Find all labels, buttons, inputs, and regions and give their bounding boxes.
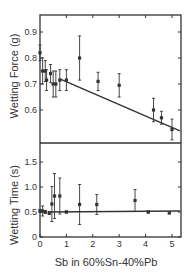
marker	[78, 203, 81, 206]
data-point	[147, 210, 150, 213]
marker	[133, 199, 136, 202]
marker	[65, 210, 68, 213]
marker	[78, 56, 81, 59]
y-tick-label: 1.5	[24, 157, 37, 167]
data-point	[50, 187, 53, 222]
marker	[118, 84, 121, 87]
marker	[48, 211, 51, 214]
wetting-force-panel: 0.60.70.80.9	[24, 15, 181, 140]
data-point	[54, 71, 57, 97]
y-tick-label: 1.0	[24, 182, 37, 192]
data-point	[118, 74, 121, 97]
y-tick-label: 0.8	[24, 53, 37, 63]
marker	[65, 79, 68, 82]
y-tick-label: 0.9	[24, 27, 37, 37]
data-point	[48, 211, 51, 214]
marker	[168, 211, 171, 214]
marker	[58, 79, 61, 82]
data-point	[65, 70, 68, 91]
x-tick-label: 5	[169, 239, 174, 249]
marker	[152, 108, 155, 111]
y-tick-label: 0.6	[24, 105, 37, 115]
data-point	[168, 211, 171, 214]
marker	[95, 203, 98, 206]
data-point	[44, 210, 47, 213]
top-y-axis-title: Wetting Force (g)	[8, 34, 20, 119]
data-point	[58, 70, 61, 91]
marker	[45, 79, 48, 82]
marker	[44, 210, 47, 213]
x-tick-label: 2	[90, 239, 95, 249]
data-point	[96, 72, 99, 90]
wetting-time-panel: 00.51.01.5012345	[24, 157, 181, 249]
marker	[50, 202, 53, 205]
chart: 0.60.70.80.9 00.51.01.5012345 Wetting Fo…	[0, 0, 192, 277]
data-point	[65, 210, 68, 213]
plot-border	[40, 15, 181, 237]
data-point	[78, 185, 81, 225]
y-tick-label: 0.5	[24, 207, 37, 217]
marker	[160, 116, 163, 119]
x-tick-label: 4	[143, 239, 148, 249]
marker	[53, 194, 56, 197]
data-point	[170, 119, 173, 140]
y-tick-label: 0	[32, 232, 37, 242]
marker	[58, 194, 61, 197]
x-tick-label: 1	[64, 239, 69, 249]
marker	[147, 210, 150, 213]
y-tick-label: 0.7	[24, 79, 37, 89]
x-axis-title: Sb in 60%Sn-40%Pb	[55, 256, 158, 268]
marker	[170, 128, 173, 131]
data-point	[133, 190, 136, 212]
plot-frame	[40, 15, 181, 237]
marker	[49, 72, 52, 75]
x-tick-label: 0	[37, 239, 42, 249]
bottom-y-axis-title: Wetting Time (s)	[8, 165, 20, 245]
data-point	[58, 178, 61, 214]
data-point	[78, 36, 81, 80]
marker	[54, 82, 57, 85]
data-point	[49, 65, 52, 83]
marker	[96, 80, 99, 83]
x-tick-label: 3	[117, 239, 122, 249]
